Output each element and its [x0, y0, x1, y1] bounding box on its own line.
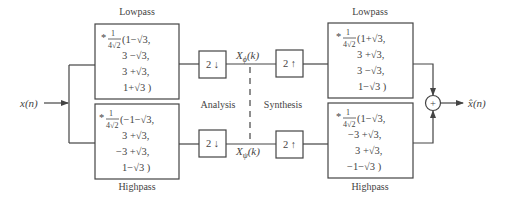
analysis-highpass-label: Highpass — [118, 181, 155, 192]
high-to-sum-arrow — [413, 111, 433, 143]
scale-numerator: 1 — [346, 28, 350, 37]
synthesis-highpass-filter: * 1 4√2 (1−√3, −3 +√3, 3 +√3, −1−√3 ) Hi… — [328, 103, 413, 192]
analysis-lowpass-label: Lowpass — [119, 6, 155, 17]
scale-star: * — [101, 32, 106, 43]
coef-line: (1−√3, — [122, 34, 150, 46]
svg-text:Xϕ(k): Xϕ(k) — [235, 49, 259, 64]
upsample-label: 2 ↑ — [283, 58, 296, 69]
coef-line: 1−√3 ) — [122, 162, 151, 174]
downsampler-low: 2 ↓ — [199, 51, 226, 78]
upsampler-low: 2 ↑ — [276, 50, 303, 77]
summing-junction: + — [426, 96, 441, 111]
coef-line: 3 +√3, — [355, 145, 382, 156]
low-to-sum-arrow — [413, 64, 433, 95]
low-channel-label: Xϕ(k) — [235, 49, 259, 64]
high-channel-label: Xψ(k) — [235, 145, 260, 160]
scale-numerator: 1 — [109, 109, 113, 118]
coef-line: (1+√3, — [357, 33, 385, 45]
svg-text:Xψ(k): Xψ(k) — [235, 145, 260, 160]
analysis-lowpass-filter: Lowpass * 1 4√2 (1−√3, 3 −√3, 3 +√3, 1+√… — [95, 6, 179, 99]
output-label: x̂(n) — [467, 97, 486, 110]
upsampler-high: 2 ↑ — [276, 131, 303, 158]
scale-denominator: 4√2 — [108, 41, 120, 50]
coef-line: 3 +√3, — [357, 49, 384, 60]
analysis-highpass-filter: * 1 4√2 (−1−√3, 3 +√3, −3 +√3, 1−√3 ) Hi… — [95, 104, 179, 192]
downsampler-high: 2 ↓ — [199, 130, 226, 157]
scale-denominator: 4√2 — [343, 40, 355, 49]
analysis-label: Analysis — [201, 99, 236, 110]
coef-line: 1−√3 ) — [358, 81, 387, 93]
coef-line: (1−√3, — [357, 113, 385, 125]
input-label: x(n) — [19, 97, 38, 110]
synthesis-lowpass-filter: Lowpass * 1 4√2 (1+√3, 3 +√3, 3 −√3, 1−√… — [328, 6, 413, 98]
scale-star: * — [336, 31, 341, 42]
downsample-label: 2 ↓ — [206, 59, 219, 70]
coef-line: (−1−√3, — [120, 114, 154, 126]
coef-line: 3 −√3, — [122, 50, 149, 61]
coef-line: 3 +√3, — [122, 130, 149, 141]
upsample-label: 2 ↑ — [283, 139, 296, 150]
synthesis-label: Synthesis — [264, 99, 302, 110]
scale-numerator: 1 — [346, 108, 350, 117]
coef-line: −3 +√3, — [116, 146, 149, 157]
coef-line: 1+√3 ) — [123, 82, 152, 94]
scale-numerator: 1 — [111, 29, 115, 38]
synthesis-lowpass-label: Lowpass — [352, 6, 388, 17]
coef-line: −3 +√3, — [348, 129, 381, 140]
filter-bank-diagram: x(n) Lowpass * 1 4√2 (1−√3, 3 −√3, 3 +√3… — [0, 0, 512, 202]
coef-line: 3 −√3, — [357, 65, 384, 76]
scale-star: * — [336, 111, 341, 122]
synthesis-highpass-label: Highpass — [351, 181, 388, 192]
plus-icon: + — [430, 98, 436, 109]
downsample-label: 2 ↓ — [206, 138, 219, 149]
coef-line: −1−√3 ) — [347, 161, 382, 173]
scale-denominator: 4√2 — [343, 120, 355, 129]
scale-denominator: 4√2 — [106, 121, 118, 130]
coef-line: 3 +√3, — [122, 66, 149, 77]
scale-star: * — [99, 112, 104, 123]
